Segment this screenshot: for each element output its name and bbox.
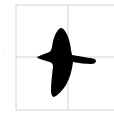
figure	[0, 0, 114, 121]
bird-eye-mark	[59, 39, 60, 40]
bird-silhouette-icon	[37, 28, 96, 97]
faint-mark	[3, 49, 4, 50]
bird-figure	[0, 0, 114, 121]
